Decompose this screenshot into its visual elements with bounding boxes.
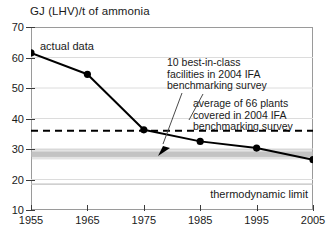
reference-band-best-in-class-soft-bottom xyxy=(31,157,313,160)
x-tick-mark-1955 xyxy=(31,205,32,211)
annotation-best-in-class-line3: benchmarking survey xyxy=(167,79,267,91)
annotation-average-line2: covered in 2004 IFA xyxy=(193,109,286,121)
x-tick-label-2005: 2005 xyxy=(301,214,325,226)
x-tick-mark-1975 xyxy=(144,205,145,211)
annotation-average-line1: average of 66 plants xyxy=(193,97,288,109)
x-tick-mark-2005 xyxy=(313,205,314,211)
annotation-best-in-class-line1: 10 best-in-class xyxy=(167,56,241,68)
y-tick-label-50: 50 xyxy=(0,82,24,94)
data-point-1965 xyxy=(84,71,91,78)
x-tick-mark-1985 xyxy=(200,205,201,211)
data-point-1985 xyxy=(197,138,204,145)
annotation-average-line3: benchmarking survey xyxy=(193,120,293,132)
y-tick-label-60: 60 xyxy=(0,52,24,64)
reference-band-best-in-class xyxy=(31,151,313,156)
x-tick-label-1985: 1985 xyxy=(188,214,212,226)
annotation-average-66-plants: average of 66 plantscovered in 2004 IFAb… xyxy=(193,98,293,133)
annotation-actual-data: actual data xyxy=(40,41,94,53)
y-tick-mark-70 xyxy=(26,27,35,28)
y-tick-mark-20 xyxy=(26,180,35,181)
data-point-1975 xyxy=(140,126,147,133)
y-tick-mark-40 xyxy=(26,119,35,120)
annotation-best-in-class-line2: facilities in 2004 IFA xyxy=(167,68,260,80)
y-tick-mark-60 xyxy=(26,58,35,59)
x-tick-label-1965: 1965 xyxy=(75,214,99,226)
data-point-1995 xyxy=(253,144,260,151)
y-tick-label-40: 40 xyxy=(0,113,24,125)
x-tick-label-1995: 1995 xyxy=(244,214,268,226)
annotation-thermodynamic-limit: thermodynamic limit xyxy=(190,189,308,201)
y-tick-mark-50 xyxy=(26,88,35,89)
x-tick-mark-1965 xyxy=(87,205,88,211)
x-tick-mark-1995 xyxy=(257,205,258,211)
chart-title: GJ (LHV)/t of ammonia xyxy=(30,5,150,17)
annotation-best-in-class: 10 best-in-classfacilities in 2004 IFAbe… xyxy=(167,57,267,92)
y-tick-label-30: 30 xyxy=(0,143,24,155)
y-tick-mark-30 xyxy=(26,149,35,150)
x-tick-label-1955: 1955 xyxy=(19,214,43,226)
y-tick-label-70: 70 xyxy=(0,21,24,33)
y-tick-label-20: 20 xyxy=(0,174,24,186)
x-tick-label-1975: 1975 xyxy=(132,214,156,226)
chart-figure: GJ (LHV)/t of ammonia 70605040302010 195… xyxy=(0,0,331,250)
data-point-1955 xyxy=(31,49,35,56)
